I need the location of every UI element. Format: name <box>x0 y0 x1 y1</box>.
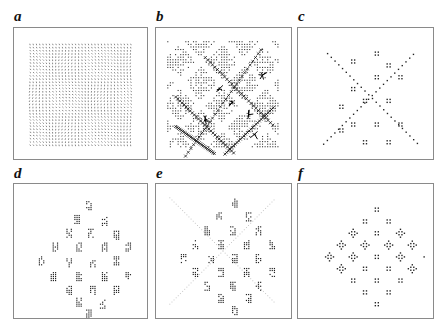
panel-e-frame <box>155 183 292 319</box>
panel-b-pattern <box>156 28 291 159</box>
panel-b-frame <box>155 27 292 160</box>
panel-label-c: c <box>298 9 305 24</box>
panel-a-frame <box>13 27 148 160</box>
panel-label-d: d <box>14 166 22 181</box>
panel-d-frame <box>13 183 148 319</box>
panel-f-frame <box>297 183 434 319</box>
panel-c-frame <box>297 27 434 160</box>
panel-c-pattern <box>298 28 433 159</box>
panel-e-pattern <box>156 184 291 318</box>
panel-a-pattern <box>14 28 147 159</box>
panel-label-f: f <box>298 166 303 181</box>
panel-d-pattern <box>14 184 147 318</box>
panel-label-b: b <box>156 9 164 24</box>
panel-label-a: a <box>14 9 22 24</box>
panel-f-pattern <box>298 184 433 318</box>
panel-label-e: e <box>156 166 163 181</box>
